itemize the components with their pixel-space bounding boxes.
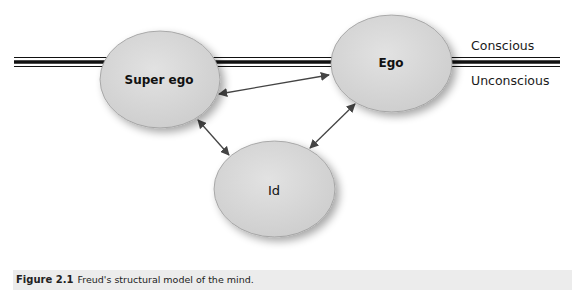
arrow-superego-ego	[219, 75, 329, 94]
node-ego: Ego	[331, 15, 452, 112]
node-label-id: Id	[268, 183, 280, 198]
arrow-superego-id	[198, 120, 229, 155]
node-super-ego: Super ego	[100, 31, 220, 128]
node-label-super-ego: Super ego	[125, 73, 194, 87]
structural-model-diagram: Super ego Ego Id Conscious Unconscious	[0, 0, 572, 290]
node-label-ego: Ego	[378, 56, 403, 70]
figure-caption: Figure 2.1Freud's structural model of th…	[16, 274, 254, 285]
node-id: Id	[214, 141, 335, 237]
arrow-ego-id	[310, 104, 355, 148]
caption-text: Freud's structural model of the mind.	[77, 274, 253, 285]
conscious-label: Conscious	[471, 38, 534, 53]
figure-number: Figure 2.1	[16, 274, 73, 285]
conscious-divider	[14, 58, 560, 67]
unconscious-label: Unconscious	[471, 73, 549, 88]
